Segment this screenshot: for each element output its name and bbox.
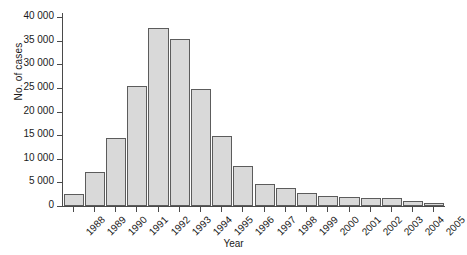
- y-axis-tick-label: 40 000: [23, 10, 54, 21]
- y-axis-tick: 5 000: [57, 182, 62, 183]
- x-axis-tick: [221, 207, 222, 212]
- x-axis-title: Year: [0, 238, 467, 249]
- bar-series: [63, 17, 445, 206]
- y-axis-tick-label: 10 000: [23, 152, 54, 163]
- x-axis-tick-label: 1992: [168, 214, 192, 238]
- bar: [233, 166, 253, 206]
- bar: [424, 203, 444, 206]
- x-axis-tick: [158, 207, 159, 212]
- bar: [85, 172, 105, 206]
- x-axis-tick: [370, 207, 371, 212]
- y-axis-tick-label: 0: [48, 199, 54, 210]
- bar: [339, 197, 359, 206]
- x-axis-tick-label: 1995: [232, 214, 256, 238]
- y-axis-tick: 30 000: [57, 64, 62, 65]
- x-axis-tick-label: 1997: [274, 214, 298, 238]
- bar: [318, 196, 338, 206]
- x-axis-tick: [285, 207, 286, 212]
- x-axis-tick-label: 1998: [295, 214, 319, 238]
- bar: [212, 136, 232, 206]
- x-axis-tick: [242, 207, 243, 212]
- bar: [361, 198, 381, 207]
- x-axis-tick-label: 1990: [126, 214, 150, 238]
- y-axis-tick-label: 25 000: [23, 81, 54, 92]
- y-axis-tick-label: 15 000: [23, 128, 54, 139]
- y-axis-tick-label: 30 000: [23, 57, 54, 68]
- x-axis-tick: [391, 207, 392, 212]
- bar: [64, 194, 84, 206]
- bar: [148, 28, 168, 206]
- bar: [297, 193, 317, 206]
- x-axis-tick: [136, 207, 137, 212]
- x-axis-tick-label: 1996: [253, 214, 277, 238]
- x-axis-tick-label: 2002: [380, 214, 404, 238]
- x-axis-tick-label: 2004: [423, 214, 447, 238]
- bar: [403, 201, 423, 206]
- x-axis-tick: [200, 207, 201, 212]
- x-axis-tick: [73, 207, 74, 212]
- y-axis-title: No. of cases: [13, 12, 24, 132]
- y-axis-tick-label: 35 000: [23, 34, 54, 45]
- x-axis-tick: [306, 207, 307, 212]
- bar: [382, 198, 402, 206]
- x-axis-tick: [94, 207, 95, 212]
- x-axis-tick: [433, 207, 434, 212]
- x-axis-tick: [264, 207, 265, 212]
- y-axis-tick: 40 000: [57, 17, 62, 18]
- x-axis-line: [62, 206, 445, 207]
- x-axis-tick-label: 2000: [338, 214, 362, 238]
- y-axis-tick-label: 5 000: [29, 175, 54, 186]
- x-axis-tick-label: 2001: [359, 214, 383, 238]
- x-axis-tick-label: 1989: [104, 214, 128, 238]
- x-axis-tick-label: 1991: [147, 214, 171, 238]
- x-axis-tick-label: 1994: [210, 214, 234, 238]
- bar: [191, 89, 211, 206]
- y-axis-tick: 20 000: [57, 112, 62, 113]
- x-axis-tick: [349, 207, 350, 212]
- y-axis-tick: 10 000: [57, 159, 62, 160]
- plot-area: 05 00010 00015 00020 00025 00030 00035 0…: [62, 17, 444, 206]
- x-axis-tick-label: 1999: [317, 214, 341, 238]
- x-axis-tick-label: 2005: [444, 214, 467, 238]
- y-axis-tick: 0: [57, 206, 62, 207]
- bar: [255, 184, 275, 206]
- x-axis-tick: [115, 207, 116, 212]
- x-axis-tick: [327, 207, 328, 212]
- y-axis-tick: 15 000: [57, 135, 62, 136]
- y-axis-tick: 35 000: [57, 41, 62, 42]
- bar: [276, 188, 296, 206]
- bar: [106, 138, 126, 207]
- x-axis-tick-label: 1993: [189, 214, 213, 238]
- x-axis-tick: [179, 207, 180, 212]
- x-axis-tick: [412, 207, 413, 212]
- x-axis-tick-label: 2003: [401, 214, 425, 238]
- y-axis-tick: 25 000: [57, 88, 62, 89]
- x-axis-tick-label: 1988: [83, 214, 107, 238]
- y-axis-tick-label: 20 000: [23, 105, 54, 116]
- bar: [170, 39, 190, 206]
- bar: [127, 86, 147, 206]
- bar-chart-figure: No. of cases 05 00010 00015 00020 00025 …: [0, 0, 467, 255]
